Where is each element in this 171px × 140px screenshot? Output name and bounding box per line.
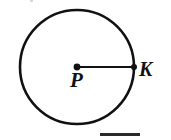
scan-artifact-speck (30, 0, 33, 2)
edge-point-label: K (139, 59, 152, 79)
edge-point-dot (131, 64, 137, 70)
center-point-label: P (70, 70, 83, 91)
geometry-figure: P K (0, 0, 171, 140)
answer-rule (100, 133, 140, 136)
